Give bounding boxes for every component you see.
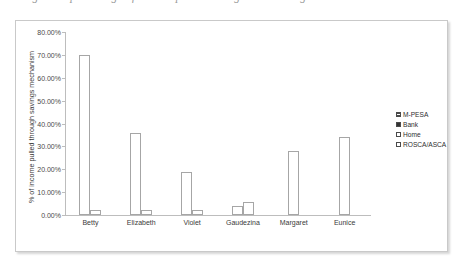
legend-item-label: M-PESA xyxy=(403,111,428,118)
legend-item-label: Bank xyxy=(403,121,418,128)
y-axis-tick-label: 20.00% xyxy=(37,166,61,173)
chart-legend: M-PESABankHomeROSCA/ASCA xyxy=(396,109,454,149)
bar-group xyxy=(116,32,167,215)
y-axis-tick-label: 50.00% xyxy=(37,97,61,104)
y-axis-tick-label: 30.00% xyxy=(37,143,61,150)
y-axis-tick-mark xyxy=(62,124,65,125)
y-axis-tick-mark xyxy=(62,169,65,170)
bar-mpesa[interactable] xyxy=(339,137,350,215)
legend-item-home[interactable]: Home xyxy=(396,129,454,139)
y-axis-tick-mark xyxy=(62,101,65,102)
bar-home[interactable] xyxy=(90,210,101,215)
y-axis-tick-mark xyxy=(62,55,65,56)
bar-group xyxy=(167,32,218,215)
y-axis-tick-mark xyxy=(62,32,65,33)
legend-item-label: ROSCA/ASCA xyxy=(403,141,446,148)
x-axis-tick-label: Margaret xyxy=(280,219,308,226)
legend-swatch-icon xyxy=(396,112,401,117)
bar-mpesa[interactable] xyxy=(288,151,299,215)
x-axis-tick-label: Eunice xyxy=(334,219,355,226)
legend-item-rosca[interactable]: ROSCA/ASCA xyxy=(396,139,454,149)
bar-group xyxy=(319,32,370,215)
y-axis-tick-label: 70.00% xyxy=(37,51,61,58)
bar-home[interactable] xyxy=(243,202,254,215)
y-axis-tick-label: 80.00% xyxy=(37,29,61,36)
legend-item-bank[interactable]: Bank xyxy=(396,119,454,129)
x-axis-tick-label: Violet xyxy=(183,219,200,226)
x-axis-tick-label: Gaudezina xyxy=(226,219,260,226)
bar-mpesa[interactable] xyxy=(232,206,243,215)
bar-mpesa[interactable] xyxy=(130,133,141,215)
y-axis-tick-mark xyxy=(62,146,65,147)
bar-group xyxy=(268,32,319,215)
legend-item-mpesa[interactable]: M-PESA xyxy=(396,109,454,119)
x-axis-tick-label: Betty xyxy=(82,219,98,226)
bar-group xyxy=(218,32,269,215)
y-axis-tick-label: 60.00% xyxy=(37,74,61,81)
y-axis-tick-label: 10.00% xyxy=(37,189,61,196)
legend-swatch-icon xyxy=(396,142,401,147)
legend-item-label: Home xyxy=(403,131,421,138)
figure-caption-clip: Figure 3: percentage of income pulled th… xyxy=(0,0,461,11)
figure-caption: Figure 3: percentage of income pulled th… xyxy=(22,0,367,2)
y-axis-tick-mark xyxy=(62,215,65,216)
x-axis-line xyxy=(65,215,371,216)
y-axis-tick-labels: 80.00%70.00%60.00%50.00%40.00%30.00%20.0… xyxy=(24,32,61,216)
y-axis-tick-label: 40.00% xyxy=(37,120,61,127)
legend-swatch-icon xyxy=(396,132,401,137)
bar-home[interactable] xyxy=(141,210,152,215)
x-axis-tick-label: Elizabeth xyxy=(127,219,156,226)
bar-home[interactable] xyxy=(192,210,203,215)
y-axis-tick-mark xyxy=(62,192,65,193)
legend-swatch-icon xyxy=(396,122,401,127)
bar-mpesa[interactable] xyxy=(79,55,90,215)
y-axis-tick-label: 0.00% xyxy=(41,212,61,219)
y-axis-tick-mark xyxy=(62,78,65,79)
bar-group xyxy=(65,32,116,215)
bar-mpesa[interactable] xyxy=(181,172,192,215)
plot-area xyxy=(65,32,370,215)
